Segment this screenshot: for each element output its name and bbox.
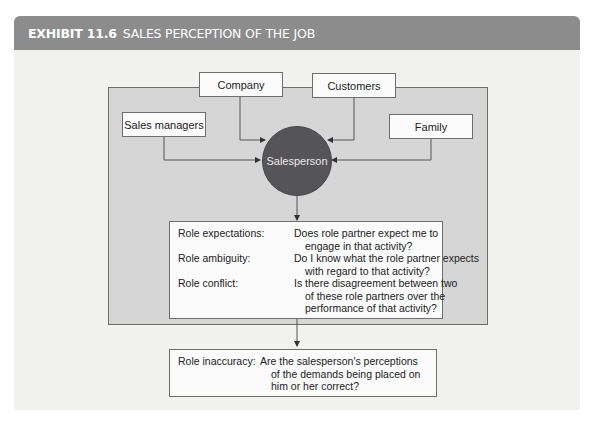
- node-sales-managers-label: Sales managers: [124, 119, 204, 131]
- node-family: Family: [389, 114, 473, 139]
- node-company: Company: [199, 72, 283, 97]
- role-inaccuracy-text-2: of the demands being placed on: [260, 368, 420, 381]
- node-customers: Customers: [312, 73, 396, 98]
- role-conflict-text-3: performance of that activity?: [294, 302, 454, 315]
- node-salesperson-label: Salesperson: [266, 155, 327, 167]
- role-inaccuracy-label: Role inaccuracy:: [178, 355, 256, 368]
- node-company-label: Company: [217, 79, 264, 91]
- role-conflict-label: Role conflict:: [178, 277, 238, 290]
- role-ambiguity-label: Role ambiguity:: [178, 252, 250, 265]
- role-inaccuracy-text-3: him or her correct?: [260, 380, 420, 393]
- node-salesperson: Salesperson: [262, 126, 332, 196]
- role-conflict-text-1: Is there disagreement between two: [294, 277, 454, 290]
- role-ambiguity-text-1: Do I know what the role partner expects: [294, 252, 454, 265]
- role-inaccuracy-text-1: Are the salesperson's perceptions: [260, 355, 420, 368]
- role-ambiguity-text-2: with regard to that activity?: [294, 265, 454, 278]
- node-customers-label: Customers: [327, 80, 380, 92]
- node-sales-managers: Sales managers: [122, 112, 206, 137]
- role-expectations-text-2: engage in that activity?: [294, 240, 454, 253]
- role-conflict-text-2: of these role partners over the: [294, 290, 454, 303]
- node-family-label: Family: [415, 121, 447, 133]
- role-expectations-text-1: Does role partner expect me to: [294, 227, 454, 240]
- role-expectations-label: Role expectations:: [178, 227, 264, 240]
- role-inaccuracy-box: Role inaccuracy: Are the salesperson's p…: [169, 349, 437, 397]
- role-definitions-box: Role expectations: Does role partner exp…: [169, 221, 443, 319]
